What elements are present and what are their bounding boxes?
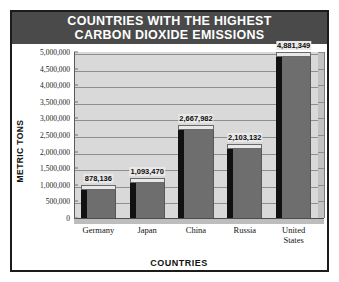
bar-top-face xyxy=(227,144,262,149)
bar-value-label: 2,667,982 xyxy=(178,114,213,123)
sidewall-tick xyxy=(318,185,324,186)
bar-top-face xyxy=(276,52,311,57)
bar-slot: 1,093,470 xyxy=(130,52,165,218)
y-axis-ticks: 0500,0001,000,0001,500,0002,000,0002,500… xyxy=(28,50,74,218)
sidewall-tick xyxy=(318,102,324,103)
bar[interactable] xyxy=(276,52,311,218)
bar-value-label: 2,103,132 xyxy=(227,133,262,142)
plot-floor xyxy=(74,218,324,224)
bar-top-face xyxy=(130,178,165,183)
bar-slot: 878,136 xyxy=(81,52,116,218)
sidewall-tick xyxy=(318,168,324,169)
bar[interactable] xyxy=(130,178,165,218)
y-axis-tick-label: 3,500,000 xyxy=(40,97,70,106)
bar-series: 878,1361,093,4702,667,9822,103,1324,881,… xyxy=(74,52,318,218)
bar-slot: 2,103,132 xyxy=(227,52,262,218)
y-axis-tick-label: 4,500,000 xyxy=(40,64,70,73)
y-axis-tick-label: 2,500,000 xyxy=(40,131,70,140)
bar-top-face xyxy=(178,125,213,130)
y-axis-tick-label: 3,000,000 xyxy=(40,114,70,123)
sidewall-tick xyxy=(318,135,324,136)
sidewall-tick xyxy=(318,52,324,53)
bar[interactable] xyxy=(81,185,116,218)
x-axis-title: COUNTRIES xyxy=(34,258,324,268)
bar-slot: 4,881,349 xyxy=(276,52,311,218)
chart-title-line-2: CARBON DIOXIDE EMISSIONS xyxy=(75,28,265,42)
x-axis-category-label: UnitedStates xyxy=(263,225,324,245)
y-axis-tick-label: 5,000,000 xyxy=(40,48,70,57)
bar-value-label: 4,881,349 xyxy=(276,41,311,50)
x-axis-ticks: GermanyJapanChinaRussiaUnitedStates xyxy=(74,225,318,255)
y-axis-tick-label: 0 xyxy=(66,214,70,223)
bar[interactable] xyxy=(227,144,262,218)
y-axis-tick-label: 500,000 xyxy=(46,197,70,206)
plot-region: 0500,0001,000,0001,500,0002,000,0002,500… xyxy=(28,50,324,242)
bar-front-face xyxy=(233,148,262,218)
bar-value-label: 878,136 xyxy=(84,174,113,183)
chart-title: COUNTRIES WITH THE HIGHEST CARBON DIOXID… xyxy=(12,12,327,44)
bar-front-face xyxy=(87,189,116,218)
y-axis-tick-label: 2,000,000 xyxy=(40,147,70,156)
chart-title-line-1: COUNTRIES WITH THE HIGHEST xyxy=(67,14,271,28)
bar-front-face xyxy=(136,182,165,218)
y-axis-tick-label: 4,000,000 xyxy=(40,81,70,90)
bar-value-label: 1,093,470 xyxy=(130,167,165,176)
bar-front-face xyxy=(282,56,311,218)
sidewall-tick xyxy=(318,201,324,202)
y-axis-tick-label: 1,000,000 xyxy=(40,180,70,189)
bar-top-face xyxy=(81,185,116,190)
bar-slot: 2,667,982 xyxy=(178,52,213,218)
y-axis-title-label: METRIC TONS xyxy=(15,120,25,183)
plot-sidewall xyxy=(318,52,325,218)
y-axis-tick-label: 1,500,000 xyxy=(40,164,70,173)
bar-front-face xyxy=(184,129,213,218)
y-axis-title: METRIC TONS xyxy=(11,96,29,206)
chart-figure: COUNTRIES WITH THE HIGHEST CARBON DIOXID… xyxy=(0,0,339,282)
sidewall-tick xyxy=(318,85,324,86)
bar[interactable] xyxy=(178,125,213,218)
sidewall-tick xyxy=(318,152,324,153)
sidewall-tick xyxy=(318,69,324,70)
sidewall-tick xyxy=(318,118,324,119)
